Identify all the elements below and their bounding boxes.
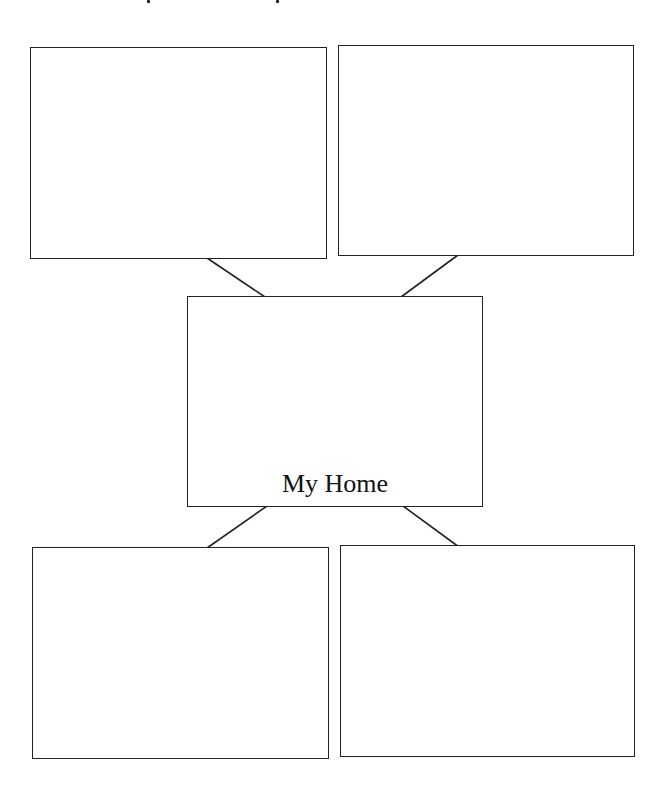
connector-bottom-left (207, 506, 267, 548)
box-center[interactable]: My Home (187, 296, 483, 507)
center-label: My Home (188, 469, 482, 499)
connector-bottom-right (403, 506, 459, 547)
title-descender-mark (276, 0, 279, 3)
box-top-left[interactable] (30, 47, 327, 259)
box-bottom-right[interactable] (340, 545, 635, 757)
box-top-right[interactable] (338, 45, 634, 256)
title-descender-mark (147, 0, 150, 3)
connector-top-right (401, 255, 458, 297)
box-bottom-left[interactable] (32, 547, 329, 759)
connector-top-left (207, 258, 265, 297)
